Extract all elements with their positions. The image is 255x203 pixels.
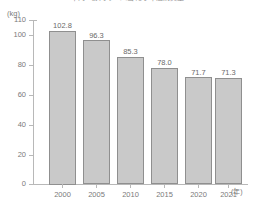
x-tick-2015 bbox=[164, 184, 165, 188]
bar-value-label-2005: 96.3 bbox=[89, 31, 104, 40]
chart-title: 牛肉・豚肉の一人当たり年間消費量 bbox=[0, 0, 255, 2]
y-tick-20: 20 bbox=[29, 155, 33, 156]
bar-2021[interactable] bbox=[215, 78, 242, 185]
y-tick-0: 0 bbox=[29, 184, 33, 185]
x-tick-2021 bbox=[228, 184, 229, 188]
bar-value-label-2010: 85.3 bbox=[123, 47, 138, 56]
x-tick-2010 bbox=[130, 184, 131, 188]
bar-value-label-2021: 71.3 bbox=[221, 68, 236, 77]
plot-area: 110 100 80 60 40 20 0 102.8 96.3 85.3 78… bbox=[33, 20, 248, 185]
x-tick-2005 bbox=[96, 184, 97, 188]
x-tick-label-2005: 2005 bbox=[88, 190, 105, 199]
x-tick-label-2020: 2020 bbox=[190, 190, 207, 199]
y-tick-label-40: 40 bbox=[18, 120, 26, 129]
bar-value-label-2020: 71.7 bbox=[191, 68, 206, 77]
y-tick-label-0: 0 bbox=[22, 179, 26, 188]
bar-value-label-2000: 102.8 bbox=[53, 21, 72, 30]
y-tick-label-80: 80 bbox=[18, 60, 26, 69]
x-tick-label-2015: 2015 bbox=[156, 190, 173, 199]
bar-2005[interactable] bbox=[83, 40, 110, 184]
bar-value-label-2015: 78.0 bbox=[157, 58, 172, 67]
bar-2015[interactable] bbox=[151, 68, 178, 185]
x-tick-2000 bbox=[62, 184, 63, 188]
bar-chart-figure: 牛肉・豚肉の一人当たり年間消費量 (kg) 110 100 80 60 40 2… bbox=[0, 0, 255, 203]
y-tick-label-110: 110 bbox=[14, 15, 26, 24]
bar-2020[interactable] bbox=[185, 77, 212, 184]
y-axis-line bbox=[33, 20, 34, 185]
y-tick-80: 80 bbox=[29, 65, 33, 66]
bar-2000[interactable] bbox=[49, 31, 76, 185]
bar-2010[interactable] bbox=[117, 57, 144, 185]
x-tick-2020 bbox=[198, 184, 199, 188]
y-tick-110: 110 bbox=[29, 20, 33, 21]
x-tick-label-2010: 2010 bbox=[122, 190, 139, 199]
y-axis-top-cap bbox=[33, 20, 37, 21]
y-tick-60: 60 bbox=[29, 95, 33, 96]
y-tick-label-100: 100 bbox=[13, 30, 26, 39]
x-axis-unit-label: (年) bbox=[231, 188, 243, 196]
y-tick-label-60: 60 bbox=[18, 90, 26, 99]
y-tick-label-20: 20 bbox=[18, 150, 26, 159]
y-tick-40: 40 bbox=[29, 125, 33, 126]
y-tick-100: 100 bbox=[29, 35, 33, 36]
x-tick-label-2000: 2000 bbox=[54, 190, 71, 199]
